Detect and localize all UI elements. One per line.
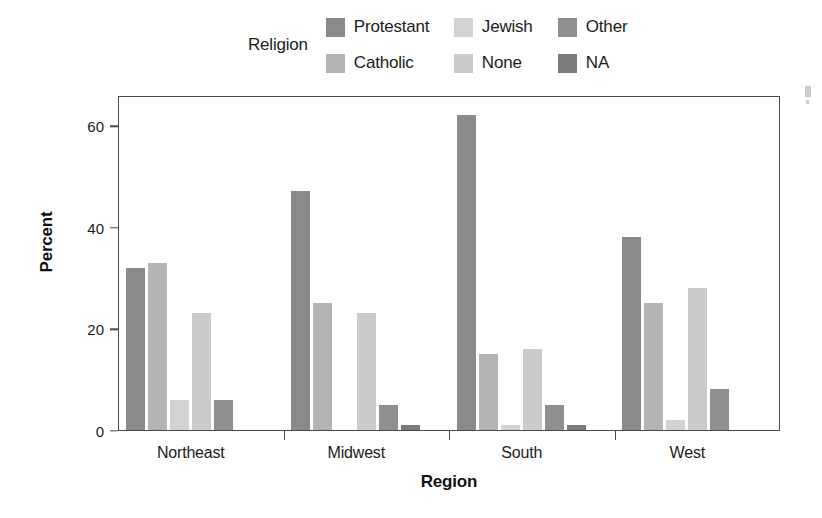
x-axis-tick-mark — [284, 431, 285, 440]
bar — [457, 115, 476, 430]
y-axis-tick-mark — [110, 430, 118, 431]
x-axis-tick-marks — [118, 431, 780, 440]
x-axis-tick-labels: NortheastMidwestSouthWest — [118, 444, 780, 468]
y-axis-tick-label: 60 — [87, 118, 104, 135]
y-axis-tick-labels: 0204060 — [62, 96, 104, 431]
legend-entry: Protestant — [326, 17, 454, 37]
legend-title: Religion — [248, 35, 308, 55]
bar — [214, 400, 233, 430]
bar — [710, 389, 729, 430]
x-axis-tick-label: Midwest — [328, 444, 385, 462]
legend-label: NA — [586, 53, 609, 73]
bar-chart-figure: Religion ProtestantJewishOtherCatholicNo… — [0, 0, 822, 518]
x-axis-tick-label: West — [670, 444, 705, 462]
bar — [622, 237, 641, 430]
bar — [479, 354, 498, 430]
bar — [170, 400, 189, 430]
bar — [545, 405, 564, 430]
bar — [644, 303, 663, 430]
legend-entry: Other — [558, 17, 650, 37]
bar — [357, 313, 376, 430]
legend-label: Protestant — [354, 17, 430, 37]
bar — [291, 191, 310, 430]
y-axis-tick-marks — [110, 96, 118, 431]
bar — [313, 303, 332, 430]
x-axis-label: Region — [118, 472, 780, 492]
legend-label: None — [482, 53, 522, 73]
page-scan-artifact — [805, 86, 811, 97]
bar — [148, 263, 167, 431]
legend-swatch-catholic — [326, 54, 345, 73]
bar — [666, 420, 685, 430]
legend-entry: Catholic — [326, 53, 454, 73]
y-axis-tick-mark — [110, 126, 118, 127]
bar — [523, 349, 542, 430]
legend-swatch-jewish — [454, 18, 473, 37]
chart-legend: Religion ProtestantJewishOtherCatholicNo… — [248, 8, 668, 82]
x-axis-tick-label: Northeast — [157, 444, 225, 462]
x-axis-tick-mark — [615, 431, 616, 440]
bar — [567, 425, 586, 430]
y-axis-label: Percent — [37, 192, 57, 292]
y-axis-tick-mark — [110, 227, 118, 228]
bars-container — [119, 97, 779, 430]
bar — [401, 425, 420, 430]
bar — [379, 405, 398, 430]
bar — [501, 425, 520, 430]
legend-entries: ProtestantJewishOtherCatholicNoneNA — [326, 9, 650, 81]
x-axis-tick-mark — [449, 431, 450, 440]
bar — [688, 288, 707, 430]
y-axis-tick-mark — [110, 329, 118, 330]
bar — [126, 268, 145, 430]
y-axis-tick-label: 40 — [87, 219, 104, 236]
bar — [192, 313, 211, 430]
legend-swatch-na — [558, 54, 577, 73]
legend-label: Catholic — [354, 53, 414, 73]
legend-swatch-protestant — [326, 18, 345, 37]
legend-entry: None — [454, 53, 558, 73]
legend-swatch-other — [558, 18, 577, 37]
page-scan-artifact-secondary — [806, 100, 809, 104]
legend-entry: Jewish — [454, 17, 558, 37]
legend-label: Jewish — [482, 17, 533, 37]
plot-area — [118, 96, 780, 431]
legend-entry: NA — [558, 53, 650, 73]
x-axis-tick-label: South — [501, 444, 542, 462]
legend-label: Other — [586, 17, 628, 37]
y-axis-tick-label: 20 — [87, 321, 104, 338]
legend-swatch-none — [454, 54, 473, 73]
y-axis-tick-label: 0 — [96, 423, 104, 440]
